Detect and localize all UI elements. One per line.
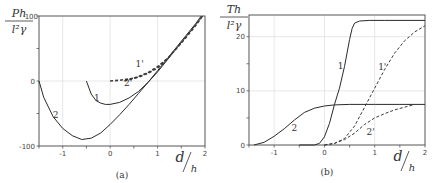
curve-label: 1 — [338, 61, 344, 71]
series-line-1 — [299, 20, 425, 145]
y-tick-label: 0 — [241, 142, 245, 150]
y-tick-label: 20 — [236, 33, 245, 41]
series-line-2prime — [324, 104, 415, 145]
series-line-2 — [39, 16, 201, 140]
curve-label: 2' — [367, 127, 375, 137]
series-line-1 — [86, 16, 202, 104]
y-tick-label: 100 — [25, 13, 38, 21]
x-tick-label: 2 — [203, 150, 207, 158]
x-axis-label-numerator: d — [176, 149, 185, 165]
x-tick-label: 0 — [108, 150, 112, 158]
panel-caption: (a) — [116, 170, 128, 180]
y-axis-label-numerator: Ph — [11, 7, 27, 20]
panel-a: -1012-1000100121'2'Phl²γdh(a) — [5, 7, 207, 180]
series-line-2 — [254, 104, 425, 145]
curve-label: 1 — [94, 93, 100, 103]
curve-label: 2 — [53, 110, 59, 120]
curve-label: 2' — [124, 78, 132, 88]
y-axis-label-denominator: l²γ — [227, 19, 242, 32]
y-tick-label: 0 — [31, 78, 35, 86]
y-axis-label-numerator: Th — [227, 3, 241, 16]
x-axis-label-numerator: d — [394, 148, 403, 164]
series-line-1prime — [110, 16, 203, 81]
panel-caption: (b) — [321, 167, 334, 177]
x-axis-label-denominator: h — [191, 163, 197, 174]
x-tick-label: 0 — [322, 149, 326, 157]
curve-label: 1' — [135, 59, 143, 69]
figure: -1012-1000100121'2'Phl²γdh(a) -101201020… — [0, 0, 433, 183]
y-tick-label: -100 — [19, 143, 35, 151]
x-tick-label: -1 — [59, 150, 66, 158]
x-tick-label: -1 — [271, 149, 278, 157]
panel-b: -101201020121'2'Thl²γdh(b) — [220, 3, 427, 177]
x-tick-label: 2 — [423, 149, 427, 157]
x-tick-label: 1 — [155, 150, 159, 158]
y-axis-label-denominator: l²γ — [12, 23, 27, 36]
curve-label: 1' — [378, 62, 386, 72]
y-tick-label: 10 — [236, 87, 245, 95]
x-tick-label: 1 — [372, 149, 376, 157]
x-axis-label-denominator: h — [409, 162, 415, 173]
curve-label: 2 — [291, 123, 297, 133]
plot-frame — [249, 15, 425, 145]
